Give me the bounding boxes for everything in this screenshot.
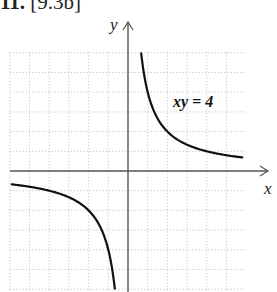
x-axis-label: x: [263, 179, 272, 198]
axes: [10, 22, 268, 292]
equation-label: xy = 4: [172, 93, 213, 111]
y-axis-label: y: [108, 15, 118, 34]
curve-branch-q3: [12, 184, 115, 288]
hyperbola-plot: x y xy = 4: [0, 0, 277, 292]
